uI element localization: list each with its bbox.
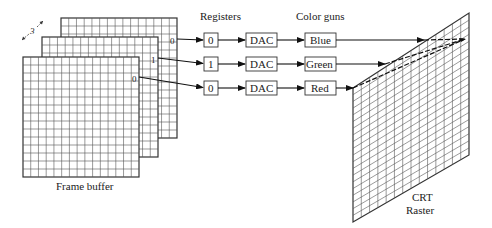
plane-bit-blue: 0 <box>170 36 175 46</box>
channel-row-green: 1 DAC Green <box>204 57 336 71</box>
plane-count-label: 3 <box>29 26 35 36</box>
plane-to-register-blue <box>177 39 203 40</box>
frame-buffer-plane-red <box>23 57 139 177</box>
register-value: 0 <box>208 82 214 94</box>
color-guns-header: Color guns <box>296 10 345 22</box>
plane-count-annotation: 3 <box>22 21 43 40</box>
channel-row-blue: 0 DAC Blue <box>204 33 336 47</box>
plane-bit-red: 0 <box>132 74 137 84</box>
frame-buffer-label: Frame buffer <box>56 180 114 192</box>
color-gun-label: Green <box>306 58 333 70</box>
plane-bit-green: 1 <box>151 55 156 65</box>
frame-buffer-diagram: 3 0 1 0 Frame buffer Registers Color gun… <box>0 0 492 228</box>
crt-label-line2: Raster <box>406 204 434 216</box>
frame-buffer-planes <box>23 18 177 177</box>
register-value: 0 <box>208 34 214 46</box>
plane-border <box>23 57 139 177</box>
color-gun-label: Red <box>311 82 329 94</box>
color-gun-label: Blue <box>310 34 331 46</box>
dac-label: DAC <box>250 82 273 94</box>
dac-label: DAC <box>250 58 273 70</box>
dac-label: DAC <box>250 34 273 46</box>
crt-label-line1: CRT <box>412 191 433 203</box>
register-value: 1 <box>208 58 214 70</box>
registers-header: Registers <box>200 10 241 22</box>
channel-row-red: 0 DAC Red <box>204 81 336 95</box>
